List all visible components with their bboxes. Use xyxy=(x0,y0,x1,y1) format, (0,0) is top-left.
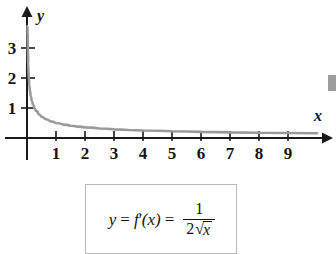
x-tick-label-1: 1 xyxy=(48,145,64,162)
formula-expression: y = f ′ (x) = 1 2 √ x xyxy=(86,201,238,239)
page-edge-artifact xyxy=(328,75,336,91)
formula-equals-1: = xyxy=(120,210,130,230)
formula-argument: (x) xyxy=(142,210,161,230)
x-tick-label-4: 4 xyxy=(135,145,151,162)
y-tick-label-2: 2 xyxy=(4,70,20,87)
formula-caption-box: y = f ′ (x) = 1 2 √ x xyxy=(85,184,237,254)
y-tick-label-3: 3 xyxy=(4,40,20,57)
y-axis-label: y xyxy=(37,8,44,24)
formula-radicand: x xyxy=(203,221,212,239)
x-tick-label-3: 3 xyxy=(106,145,122,162)
y-axis-arrowhead xyxy=(22,6,33,17)
x-tick-label-5: 5 xyxy=(164,145,180,162)
formula-equals-2: = xyxy=(165,210,175,230)
x-tick-label-2: 2 xyxy=(77,145,93,162)
formula-numerator: 1 xyxy=(189,201,209,219)
x-tick-label-6: 6 xyxy=(193,145,209,162)
x-tick-label-8: 8 xyxy=(251,145,267,162)
x-axis-arrowhead xyxy=(322,133,333,144)
y-tick-label-1: 1 xyxy=(4,100,20,117)
formula-fraction: 1 2 √ x xyxy=(183,201,215,239)
curve-f-prime xyxy=(28,26,317,133)
formula-y: y xyxy=(109,210,117,230)
x-tick-label-7: 7 xyxy=(222,145,238,162)
x-axis-label: x xyxy=(314,108,322,124)
formula-denominator-coefficient: 2 xyxy=(186,221,194,238)
formula-radical: √ x xyxy=(195,221,212,239)
formula-denominator: 2 √ x xyxy=(183,220,215,239)
x-tick-label-9: 9 xyxy=(280,145,296,162)
